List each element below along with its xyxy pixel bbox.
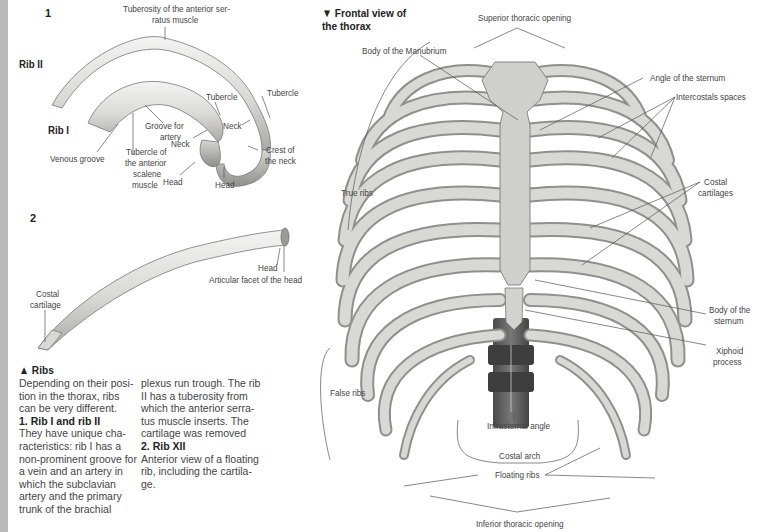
caption-line: a vein and an artery in xyxy=(19,465,147,478)
costal-cartilages-label-line2: cartilages xyxy=(698,187,733,198)
thorax-heading-line2: the thorax xyxy=(322,20,371,33)
scalene-label-line1: Tubercle of xyxy=(126,146,167,157)
articular-facet-label: Articular facet of the head xyxy=(209,274,302,285)
scalene-label-line3: scalene xyxy=(133,168,161,179)
costal-cartilage-label-line2: cartilage xyxy=(30,299,61,310)
caption-line: tion in the thorax, ribs xyxy=(19,390,147,403)
scalene-label-line2: the anterior xyxy=(125,157,166,168)
superior-opening-label: Superior thoracic opening xyxy=(478,12,571,23)
body-sternum-label-line2: sternum xyxy=(714,315,744,326)
caption-line: Anterior view of a floating xyxy=(141,453,269,466)
true-ribs-label: True ribs xyxy=(341,187,373,198)
neck-rib2-label: Neck xyxy=(223,120,242,131)
caption-line: non-prominent groove for xyxy=(19,453,147,466)
caption-line: can be very different. xyxy=(19,402,147,415)
floating-ribs-label: Floating ribs xyxy=(495,469,540,480)
tubercle-rib1-label: Tubercle xyxy=(206,91,237,102)
ribs-caption-column-1: Depending on their posi- tion in the tho… xyxy=(19,377,147,516)
tuberosity-label-line2: ratus muscle xyxy=(152,14,198,25)
ribs-caption-column-2: plexus run trough. The rib II has a tube… xyxy=(141,377,269,490)
ribcage-illustration xyxy=(343,62,687,455)
groove-label-line1: Groove for xyxy=(145,120,184,131)
costal-arch-label: Costal arch xyxy=(499,450,540,461)
caption-line: plexus run trough. The rib xyxy=(141,377,269,390)
crest-label-line1: Crest of xyxy=(266,144,295,155)
caption-subheading: 1. Rib I and rib II xyxy=(19,415,147,428)
figure1-number: 1 xyxy=(45,7,51,19)
intercostal-spaces-label: Intercostals spaces xyxy=(676,91,746,102)
caption-line: trunk of the brachial xyxy=(19,503,147,516)
neck-rib1-label: Neck xyxy=(171,138,190,149)
head-rib2-label: Head xyxy=(215,179,235,190)
caption-subheading: 2. Rib XII xyxy=(141,440,269,453)
caption-line: They have unique cha- xyxy=(19,427,147,440)
angle-sternum-label: Angle of the sternum xyxy=(650,72,725,83)
caption-line: rib, including the cartila- xyxy=(141,465,269,478)
costal-cartilages-label-line1: Costal xyxy=(704,176,727,187)
venous-groove-label: Venous groove xyxy=(50,153,105,164)
caption-line: artery and the primary xyxy=(19,490,147,503)
caption-line: II has a tuberosity from xyxy=(141,390,269,403)
rib-ii-label: Rib II xyxy=(19,58,43,70)
xiphoid-label-line1: Xiphoid xyxy=(716,345,743,356)
caption-line: racteristics: rib I has a xyxy=(19,440,147,453)
tuberosity-label-line1: Tuberosity of the anterior ser- xyxy=(123,3,230,14)
figure2-number: 2 xyxy=(30,212,36,224)
manubrium-label: Body of the Manubrium xyxy=(362,45,446,56)
caption-line: which the anterior serra- xyxy=(141,402,269,415)
caption-line: cartilage was removed xyxy=(141,427,269,440)
xiphoid-label-line2: process xyxy=(713,356,742,367)
tubercle-rib2-label: Tubercle xyxy=(267,87,298,98)
thorax-heading-line1: ▼ Frontal view of xyxy=(322,7,406,20)
caption-line: which the subclavian xyxy=(19,478,147,491)
infrasternal-angle-label: Infrasternal angle xyxy=(487,420,550,431)
costal-cartilage-label-line1: Costal xyxy=(36,288,59,299)
caption-line: ge. xyxy=(141,478,269,491)
crest-label-line2: the neck xyxy=(265,155,296,166)
head-rib1-label: Head xyxy=(163,176,183,187)
ribs-caption-title: ▲ Ribs xyxy=(19,364,54,377)
body-sternum-label-line1: Body of the xyxy=(709,304,750,315)
caption-line: tus muscle inserts. The xyxy=(141,415,269,428)
scalene-label-line4: muscle xyxy=(132,179,158,190)
rib-i-label: Rib I xyxy=(48,124,69,136)
caption-line: Depending on their posi- xyxy=(19,377,147,390)
inferior-opening-label: Inferior thoracic opening xyxy=(476,518,564,529)
rib-xii-head-label: Head xyxy=(258,262,278,273)
false-ribs-label: False ribs xyxy=(330,387,365,398)
rib-xii-illustration xyxy=(38,228,289,350)
